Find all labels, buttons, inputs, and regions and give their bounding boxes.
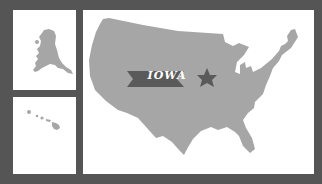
- hawaii-map-icon: [13, 97, 76, 174]
- usa-map-icon: [83, 10, 314, 174]
- alaska-map-icon: [13, 10, 76, 90]
- usa-panel: [83, 10, 314, 174]
- alaska-panel: [13, 10, 76, 90]
- state-label: IOWA: [137, 68, 197, 84]
- hawaii-panel: [13, 97, 76, 174]
